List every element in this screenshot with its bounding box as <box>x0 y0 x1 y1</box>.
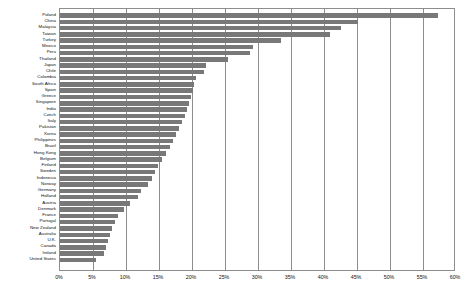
x-tick-label: 60% <box>435 274 472 280</box>
plot-area <box>59 8 455 271</box>
bar <box>60 195 138 200</box>
bar <box>60 189 141 194</box>
bar <box>60 70 204 75</box>
bar-chart: PolandChinaMalaysiaTaiwanTurkeyMexicoPer… <box>0 0 472 299</box>
bar <box>60 245 106 250</box>
bar <box>60 233 110 238</box>
bar <box>60 214 118 219</box>
bar <box>60 145 170 150</box>
bar <box>60 45 253 50</box>
bar <box>60 95 191 100</box>
bar <box>60 76 196 81</box>
bar <box>60 164 158 169</box>
bar <box>60 114 185 119</box>
bar <box>60 220 115 225</box>
bar <box>60 57 228 62</box>
category-axis-labels: PolandChinaMalaysiaTaiwanTurkeyMexicoPer… <box>0 8 56 271</box>
bar <box>60 82 194 87</box>
bar <box>60 101 189 106</box>
bar-series <box>60 9 454 270</box>
bar <box>60 139 173 144</box>
bar-row <box>60 257 454 263</box>
bar <box>60 176 152 181</box>
bar <box>60 26 341 31</box>
bar <box>60 32 330 37</box>
bar <box>60 88 193 93</box>
bar <box>60 258 96 263</box>
bar <box>60 38 281 43</box>
bar <box>60 126 179 131</box>
bar <box>60 251 104 256</box>
bar <box>60 13 438 18</box>
bar <box>60 170 155 175</box>
bar <box>60 107 187 112</box>
bar <box>60 132 176 137</box>
bar <box>60 201 130 206</box>
bar <box>60 226 112 231</box>
category-label: United States <box>0 256 56 262</box>
bar <box>60 51 250 56</box>
bar <box>60 63 206 68</box>
value-axis-labels: 0%5%10%15%20%25%30%35%40%45%50%55%60% <box>0 274 472 286</box>
bar <box>60 20 358 25</box>
bar <box>60 182 148 187</box>
bar <box>60 120 182 125</box>
bar <box>60 239 108 244</box>
bar <box>60 207 124 212</box>
bar <box>60 151 166 156</box>
bar <box>60 157 162 162</box>
